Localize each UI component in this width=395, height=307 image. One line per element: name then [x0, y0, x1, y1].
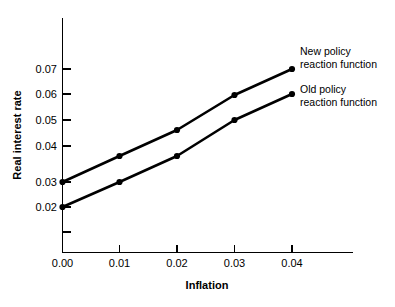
y-tick-label-0.06: 0.06 [36, 88, 57, 100]
data-point-new-0.04 [289, 66, 295, 72]
y-tick-label-0.04: 0.04 [36, 140, 57, 152]
data-point-old-0.03 [231, 117, 237, 123]
chart-screenshot: 0.07 0.06 0.05 0.04 0.03 0.02 0.00 0.01 … [0, 0, 395, 307]
x-tick-label-0.01: 0.01 [109, 257, 130, 269]
y-axis-title: Real interest rate [11, 90, 23, 179]
annotation-old-policy-line1: Old policy [300, 83, 347, 95]
y-tick-label-0.07: 0.07 [36, 63, 57, 75]
x-tick-label-0.04: 0.04 [281, 257, 302, 269]
series-new-policy-reaction-function [59, 66, 295, 185]
annotation-new-policy-line1: New policy [300, 45, 352, 57]
series-line-new-policy [63, 69, 293, 182]
annotation-old-policy: Old policy reaction function [300, 83, 377, 108]
annotation-new-policy-line2: reaction function [300, 58, 377, 70]
data-point-new-0.03 [231, 92, 237, 98]
x-tick-label-0.03: 0.03 [224, 257, 245, 269]
data-point-old-0.02 [174, 153, 180, 159]
annotation-old-policy-line2: reaction function [300, 96, 377, 108]
data-point-old-0.00 [59, 204, 65, 210]
data-point-new-0.02 [174, 127, 180, 133]
annotation-new-policy: New policy reaction function [300, 45, 377, 70]
series-old-policy-reaction-function [59, 91, 295, 210]
x-tick-label-0.00: 0.00 [52, 257, 73, 269]
x-tick-label-0.02: 0.02 [166, 257, 187, 269]
y-tick-label-0.02: 0.02 [36, 201, 57, 213]
policy-reaction-function-chart: 0.07 0.06 0.05 0.04 0.03 0.02 0.00 0.01 … [0, 0, 395, 307]
y-tick-label-0.05: 0.05 [36, 114, 57, 126]
series-line-old-policy [63, 94, 293, 207]
data-point-old-0.01 [116, 179, 122, 185]
y-axis-tick-labels: 0.07 0.06 0.05 0.04 0.03 0.02 [36, 63, 57, 213]
x-axis-tick-labels: 0.00 0.01 0.02 0.03 0.04 [52, 257, 303, 269]
data-point-new-0.00 [59, 179, 65, 185]
data-point-old-0.04 [289, 91, 295, 97]
x-axis-title: Inflation [186, 279, 229, 291]
y-tick-label-0.03: 0.03 [36, 176, 57, 188]
x-axis-ticks [63, 245, 293, 253]
data-point-new-0.01 [116, 153, 122, 159]
